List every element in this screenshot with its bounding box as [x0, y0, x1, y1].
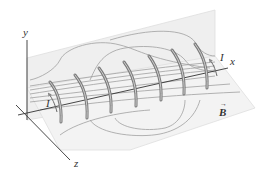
vector-arrow-icon: → — [220, 101, 227, 108]
x-axis-label: x — [230, 56, 235, 67]
y-axis-label: y — [23, 27, 28, 38]
magnetic-field-label: B → — [219, 107, 226, 118]
solenoid-diagram: y x z I I B → — [0, 0, 271, 181]
diagram-graphic — [0, 0, 271, 181]
z-axis-label: z — [74, 158, 78, 169]
current-label-right: I — [220, 52, 224, 63]
current-label-left: I — [46, 98, 50, 109]
